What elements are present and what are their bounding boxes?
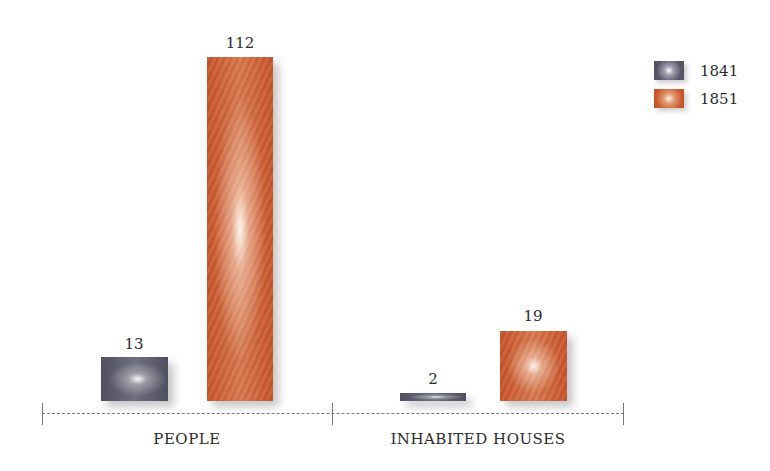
x-axis-tick (332, 403, 333, 425)
value-label-houses-1841: 2 (393, 370, 473, 388)
bar-chart: 13 112 2 19 PEOPLE INHABITED HOUSES 1841… (0, 0, 770, 471)
value-label-people-1851: 112 (200, 34, 280, 52)
bar-people-1851 (207, 57, 273, 401)
value-label-houses-1851: 19 (493, 307, 573, 325)
value-label-people-1841: 13 (94, 335, 174, 353)
bar-houses-1841 (400, 393, 466, 401)
legend-label-1851: 1851 (700, 89, 738, 109)
x-axis-line (42, 413, 624, 414)
legend-swatch-1851 (654, 89, 684, 108)
x-axis-tick (42, 403, 43, 425)
category-label-inhabited-houses: INHABITED HOUSES (333, 430, 623, 448)
bar-houses-1851 (500, 331, 567, 401)
legend-label-1841: 1841 (700, 61, 738, 81)
category-label-people: PEOPLE (42, 430, 332, 448)
bar-people-1841 (101, 357, 168, 401)
x-axis-tick (623, 403, 624, 425)
legend-swatch-1841 (654, 61, 684, 80)
